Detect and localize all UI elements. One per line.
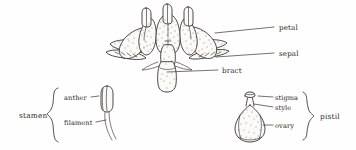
leader-line-stigma (258, 96, 273, 97)
label-filament: filament (64, 119, 93, 127)
label-pistil: pistil (320, 112, 340, 121)
label-stamen: stamen (19, 111, 48, 120)
pistil-brace (303, 92, 314, 140)
bract-shape-left-small (142, 62, 159, 70)
pistil-illustration-group: pistil stigma style ovary (235, 92, 340, 142)
label-stigma: stigma (275, 94, 298, 102)
leader-line-petal (215, 27, 274, 33)
bract-shape-right-small (175, 62, 192, 70)
whole-flower-illustration: petal sepal bract (106, 4, 299, 92)
leader-line-anther (91, 96, 99, 97)
label-anther: anther (64, 94, 87, 102)
stamen-illustration-group: stamen anther filament (19, 86, 116, 142)
label-petal: petal (279, 23, 298, 32)
filament-shape-right-edge (109, 112, 116, 139)
label-ovary: ovary (275, 122, 294, 130)
leader-line-style (254, 104, 273, 107)
label-sepal: sepal (279, 49, 299, 58)
ovary-shape (235, 105, 265, 142)
flower-anatomy-figure: petal sepal bract stamen anther filament (0, 0, 356, 150)
leader-line-filament (96, 120, 106, 122)
stamen-brace (47, 88, 58, 142)
label-bract: bract (222, 66, 242, 75)
bract-shape (158, 62, 177, 92)
botanical-diagram: petal sepal bract stamen anther filament (0, 0, 356, 150)
label-style: style (275, 104, 291, 112)
